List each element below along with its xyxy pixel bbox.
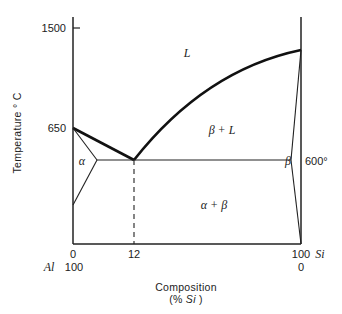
eutectic-temp-label: 600°: [305, 155, 328, 167]
x-axis-unit: (% Si ): [169, 293, 203, 305]
beta-solidus: [291, 50, 301, 160]
x-tick-12: 12: [128, 248, 140, 260]
y-tick-1500: 1500: [42, 22, 66, 34]
x-axis-label: Composition: [155, 281, 217, 293]
liquidus-right: [134, 50, 301, 160]
x-tick-0: 0: [70, 248, 76, 260]
y-tick-650: 650: [48, 122, 66, 134]
element-si: Si: [315, 247, 324, 261]
element-al: Al: [43, 260, 55, 274]
region-liquid: L: [183, 46, 191, 60]
y-axis-label: Temperature ° C: [11, 92, 23, 173]
x-tick-si-0: 0: [298, 261, 304, 273]
region-beta: β: [284, 154, 291, 168]
phase-diagram: 1500 650 Temperature ° C 0 12 100 100 0 …: [0, 0, 342, 314]
x-tick-al-100: 100: [65, 261, 83, 273]
x-tick-100: 100: [292, 248, 310, 260]
beta-solvus: [291, 160, 301, 244]
region-alpha-beta: α + β: [201, 198, 227, 212]
region-beta-liquid: β + L: [208, 123, 236, 137]
region-alpha: α: [79, 154, 86, 168]
